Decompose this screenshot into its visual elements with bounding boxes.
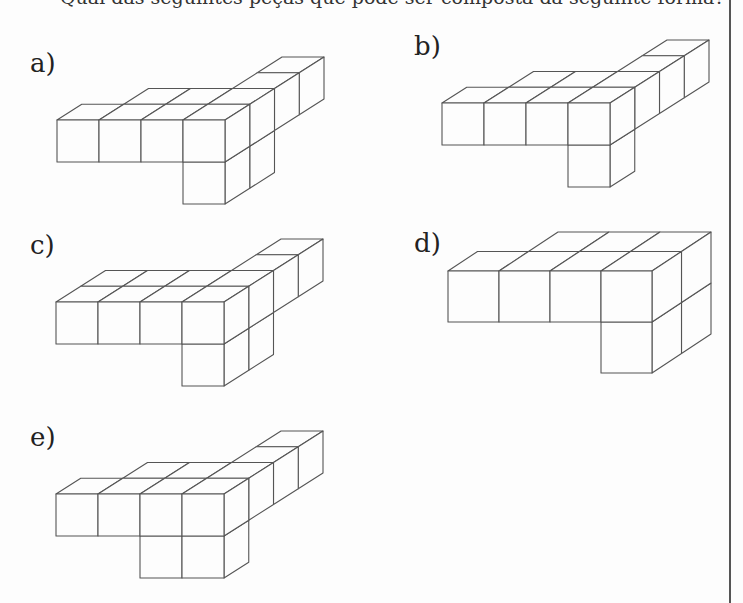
cube-face — [99, 120, 141, 162]
cube-face — [499, 271, 550, 322]
cube-face — [183, 162, 225, 204]
figure-option-d[interactable] — [448, 232, 711, 373]
cube-face — [141, 120, 183, 162]
cube-face — [98, 302, 140, 344]
cube-face — [601, 271, 652, 322]
figure-option-c[interactable] — [56, 239, 323, 386]
cube-face — [140, 494, 182, 536]
cube-face — [56, 494, 98, 536]
cube-face — [568, 103, 610, 145]
cube-face — [140, 536, 182, 578]
cube-face — [183, 120, 225, 162]
cube-face — [182, 344, 224, 386]
cube-face — [568, 145, 610, 187]
cube-face — [442, 103, 484, 145]
cube-face — [57, 120, 99, 162]
cube-face — [182, 536, 224, 578]
cube-face — [550, 271, 601, 322]
cube-face — [448, 271, 499, 322]
cube-face — [140, 302, 182, 344]
cube-face — [601, 322, 652, 373]
cube-face — [182, 302, 224, 344]
figure-option-a[interactable] — [57, 57, 324, 204]
cube-figures — [0, 0, 743, 603]
figure-option-b[interactable] — [442, 40, 709, 187]
cube-face — [484, 103, 526, 145]
cube-face — [98, 494, 140, 536]
cube-face — [182, 494, 224, 536]
figure-option-e[interactable] — [56, 431, 323, 578]
cube-face — [526, 103, 568, 145]
cube-face — [56, 302, 98, 344]
